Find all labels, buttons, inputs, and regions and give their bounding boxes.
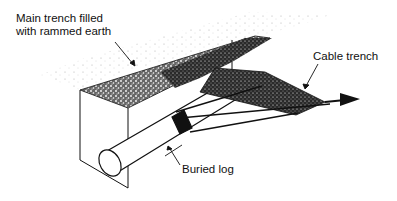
buried-log-label: Buried log: [182, 163, 234, 176]
main-trench-label: Main trench filled with rammed earth: [16, 12, 111, 38]
cable-trench-label: Cable trench: [313, 50, 378, 63]
main-trench-label-line1: Main trench filled: [16, 12, 111, 25]
main-trench-label-line2: with rammed earth: [16, 25, 111, 38]
tension-arrow-icon: [325, 93, 360, 106]
